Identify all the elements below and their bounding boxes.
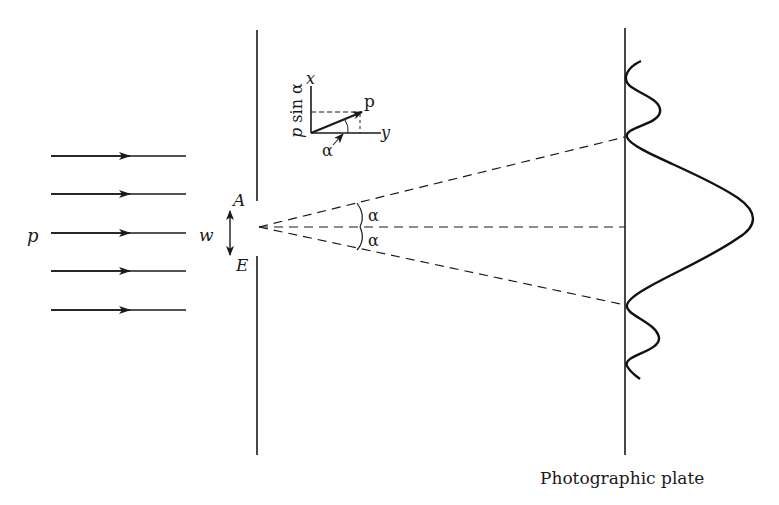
lower-angle-label: α [368,231,379,250]
incident-momentum-label: p [27,225,39,246]
lower-angle-arc [357,227,362,250]
inset-angle-arc [345,120,348,133]
inset-y-label: y [380,123,391,142]
upper-angle-label: α [368,206,379,225]
inset-vector-label: p [364,91,375,111]
inset-angle-pointer [333,134,343,145]
inset-x-label: x [306,69,315,88]
plate-label: Photographic plate [540,468,704,488]
intensity-curve [626,61,753,379]
inset-momentum-vector [311,112,362,133]
slit-top-label: A [231,190,245,210]
lower-minimum-line [259,227,625,305]
upper-minimum-line [259,137,625,227]
upper-angle-arc [357,203,362,227]
inset-component-label: p sin α [287,83,306,138]
incident-rays [51,156,186,310]
diffraction-lines [259,137,625,305]
slit-width-label: w [199,225,214,245]
slit-bottom-label: E [235,255,249,275]
diffraction-diagram: p A E w α α x y p α p sin α Photographic… [0,0,779,505]
inset-angle-label: α [322,141,333,160]
